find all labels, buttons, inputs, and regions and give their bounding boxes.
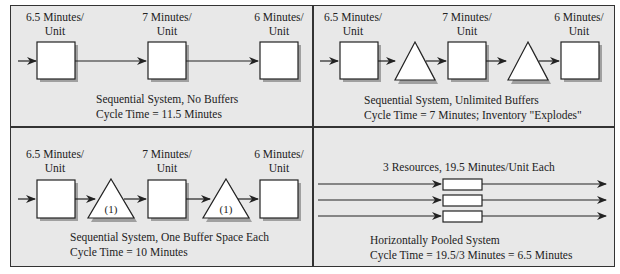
buffer-capacity-label: (1) xyxy=(101,202,121,216)
resource-box xyxy=(443,179,482,190)
station-box xyxy=(148,42,186,79)
station-3-label: 6 Minutes/ Unit xyxy=(548,10,610,38)
buffer-capacity-label: (1) xyxy=(216,202,236,216)
station-2-label: 7 Minutes/ Unit xyxy=(136,10,198,38)
panel-bottom-right-caption: Horizontally Pooled System Cycle Time = … xyxy=(370,233,572,263)
station-unit: Unit xyxy=(248,24,310,38)
panel-top-left-shapes xyxy=(18,42,301,82)
system-name: Horizontally Pooled System xyxy=(370,233,572,248)
cycle-time: Cycle Time = 7 Minutes; Inventory "Explo… xyxy=(364,108,582,123)
station-unit: Unit xyxy=(548,24,610,38)
station-box xyxy=(561,42,599,79)
cycle-time: Cycle Time = 19.5/3 Minutes = 6.5 Minute… xyxy=(370,248,572,263)
resource-box xyxy=(443,211,482,222)
cycle-time: Cycle Time = 11.5 Minutes xyxy=(96,107,238,122)
station-box xyxy=(340,42,378,79)
station-time: 7 Minutes/ xyxy=(136,147,198,161)
station-unit: Unit xyxy=(136,24,198,38)
station-unit: Unit xyxy=(322,24,384,38)
station-time: 6.5 Minutes/ xyxy=(24,10,86,24)
panel-bottom-right-shapes xyxy=(318,179,606,222)
station-time: 6 Minutes/ xyxy=(248,10,310,24)
resource-box xyxy=(443,195,482,206)
station-1-label: 6.5 Minutes/ Unit xyxy=(24,10,86,38)
panel-bottom-left-caption: Sequential System, One Buffer Space Each… xyxy=(70,230,269,260)
station-unit: Unit xyxy=(436,24,498,38)
station-time: 6 Minutes/ xyxy=(548,10,610,24)
system-name: Sequential System, No Buffers xyxy=(96,92,238,107)
station-time: 7 Minutes/ xyxy=(436,10,498,24)
station-time: 6.5 Minutes/ xyxy=(322,10,384,24)
panel-top-right-caption: Sequential System, Unlimited Buffers Cyc… xyxy=(364,93,582,123)
station-2-label: 7 Minutes/ Unit xyxy=(136,147,198,175)
panel-top-left-caption: Sequential System, No Buffers Cycle Time… xyxy=(96,92,238,122)
station-1-label: 6.5 Minutes/ Unit xyxy=(24,147,86,175)
station-box xyxy=(37,42,75,79)
pooled-resources-header: 3 Resources, 19.5 Minutes/Unit Each xyxy=(383,160,543,174)
station-unit: Unit xyxy=(248,161,310,175)
station-box xyxy=(260,180,298,218)
station-box xyxy=(148,180,186,218)
station-box xyxy=(260,42,298,79)
cycle-time: Cycle Time = 10 Minutes xyxy=(70,245,269,260)
station-box xyxy=(37,180,75,218)
station-unit: Unit xyxy=(24,161,86,175)
system-name: Sequential System, One Buffer Space Each xyxy=(70,230,269,245)
station-time: 7 Minutes/ xyxy=(136,10,198,24)
station-1-label: 6.5 Minutes/ Unit xyxy=(322,10,384,38)
station-time: 6 Minutes/ xyxy=(248,147,310,161)
station-3-label: 6 Minutes/ Unit xyxy=(248,10,310,38)
station-box xyxy=(448,42,486,79)
station-time: 6.5 Minutes/ xyxy=(24,147,86,161)
panel-bottom-left-shapes xyxy=(18,179,301,222)
system-name: Sequential System, Unlimited Buffers xyxy=(364,93,582,108)
panel-top-right-shapes xyxy=(320,42,602,84)
station-3-label: 6 Minutes/ Unit xyxy=(248,147,310,175)
station-unit: Unit xyxy=(136,161,198,175)
station-unit: Unit xyxy=(24,24,86,38)
station-2-label: 7 Minutes/ Unit xyxy=(436,10,498,38)
